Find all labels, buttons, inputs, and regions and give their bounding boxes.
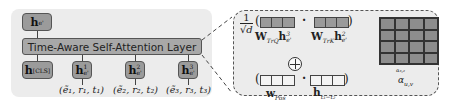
label-sub: u,v — [404, 80, 413, 87]
label-sub: TrQ — [267, 37, 279, 44]
label-sub: Pos — [275, 94, 286, 101]
label-base: W — [311, 30, 323, 42]
label-sub: e' — [342, 37, 347, 43]
close-paren: ) — [348, 14, 353, 28]
label-sub: e' — [286, 37, 291, 43]
dot-operator: · — [302, 13, 306, 27]
position-vector — [260, 75, 295, 86]
fraction-numerator: 1 — [240, 12, 253, 24]
time-interval-vector — [310, 75, 345, 86]
label-base: W — [255, 30, 267, 42]
key-label: WTrKh2e' — [311, 30, 347, 44]
query-label: WTrQh3e' — [255, 30, 291, 44]
label-vec: h — [279, 30, 287, 42]
label-base: w — [266, 87, 275, 99]
attention-matrix — [379, 17, 439, 65]
query-vector — [260, 17, 295, 28]
close-paren: ) — [344, 72, 349, 86]
open-paren: ( — [255, 14, 260, 28]
label-sub: t₃−t₂ — [321, 93, 336, 100]
position-label: wPos — [266, 87, 286, 101]
matrix-cell-label: α₃,₂ — [396, 67, 405, 73]
scale-fraction: 1 √d — [240, 12, 253, 35]
time-interval-label: ht₃−t₂ — [313, 86, 335, 100]
label-sub: TrK — [323, 37, 334, 44]
open-paren: ( — [255, 72, 260, 86]
dot-operator: · — [302, 71, 306, 85]
add-operator-icon — [288, 57, 302, 71]
key-vector — [314, 17, 349, 28]
label-vec: h — [334, 30, 342, 42]
matrix-label: αu,v — [398, 75, 413, 87]
fraction-denominator: √d — [240, 24, 253, 35]
label-base: h — [313, 86, 321, 98]
